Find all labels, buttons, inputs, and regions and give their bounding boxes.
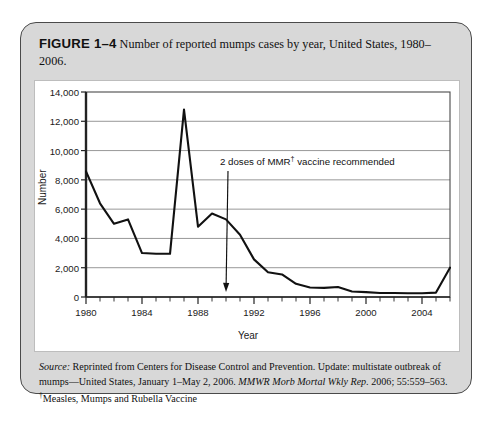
figure-caption: FIGURE 1–4 Number of reported mumps case… <box>39 35 451 70</box>
x-tick-label: 1996 <box>287 307 333 318</box>
y-tick-label: 0 <box>35 292 79 303</box>
y-axis-title: Number <box>37 169 48 205</box>
gridlines <box>86 121 450 267</box>
source-prefix: Source: <box>39 361 70 372</box>
y-tick-label: 10,000 <box>35 145 79 156</box>
y-tick-label: 12,000 <box>35 116 79 127</box>
figure-panel: FIGURE 1–4 Number of reported mumps case… <box>20 22 472 394</box>
x-tick-label: 2000 <box>343 307 389 318</box>
x-tick-label: 1988 <box>175 307 221 318</box>
axis-frame <box>86 92 450 297</box>
chart-plot-area: 14,00012,00010,0008,0006,0004,0002,0000 … <box>35 81 461 353</box>
x-axis-title: Year <box>35 330 461 341</box>
annotation-footnote-marker: † <box>291 154 295 163</box>
source-tail: 2006; 55:559–563. <box>369 376 448 387</box>
x-tick-label: 1984 <box>119 307 165 318</box>
chart-card: 14,00012,00010,0008,0006,0004,0002,0000 … <box>34 80 460 352</box>
x-tick-label: 2004 <box>399 307 445 318</box>
annotation-arrowhead <box>223 283 229 292</box>
footnote-text: Measles, Mumps and Rubella Vaccine <box>43 393 197 404</box>
x-tick-label: 1992 <box>231 307 277 318</box>
x-tick-label: 1980 <box>63 307 109 318</box>
source-journal: MMWR Morb Mortal Wkly Rep. <box>238 376 368 387</box>
data-series-line <box>86 110 450 294</box>
y-tick-label: 4,000 <box>35 233 79 244</box>
mumps-cases-path <box>86 110 450 294</box>
y-tick-label: 14,000 <box>35 87 79 98</box>
y-tick-label: 2,000 <box>35 262 79 273</box>
annotation-arrow <box>223 171 229 292</box>
y-tick-label: 6,000 <box>35 204 79 215</box>
source-note: Source: Reprinted from Centers for Disea… <box>39 360 457 389</box>
x-axis-ticks <box>86 297 450 304</box>
footnote: †Measles, Mumps and Rubella Vaccine <box>39 391 457 404</box>
annotation-text: 2 doses of MMR† vaccine recommended <box>220 154 395 167</box>
figure-label: FIGURE 1–4 <box>39 36 117 51</box>
